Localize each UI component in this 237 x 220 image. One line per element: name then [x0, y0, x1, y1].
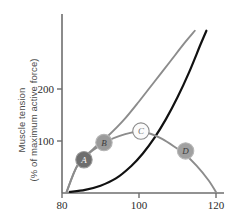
y-axis-label-line2: (% of maximum active force) — [28, 58, 39, 181]
chart-canvas: 100200 80100120 ABCD Muscle tension (% o… — [0, 0, 237, 220]
point-marker-b: B — [96, 134, 112, 150]
muscle-tension-chart: 100200 80100120 ABCD Muscle tension (% o… — [0, 0, 237, 220]
y-axis-ticks: 100200 — [38, 83, 63, 147]
marker-label: C — [138, 126, 145, 136]
y-tick-label: 100 — [38, 135, 55, 147]
x-tick-label: 100 — [131, 199, 148, 211]
x-tick-label: 120 — [208, 199, 225, 211]
point-marker-a: A — [76, 152, 92, 168]
marker-label: D — [181, 146, 189, 156]
y-axis-label-line1: Muscle tension — [16, 88, 27, 153]
x-axis-ticks: 80100120 — [57, 193, 225, 211]
y-axis-label: Muscle tension (% of maximum active forc… — [16, 58, 39, 181]
y-tick-label: 200 — [38, 83, 55, 95]
marker-label: B — [101, 138, 107, 148]
point-marker-c: C — [133, 123, 149, 139]
point-marker-d: D — [177, 143, 193, 159]
marker-label: A — [80, 155, 87, 165]
passive-tension-curve — [70, 31, 207, 192]
x-tick-label: 80 — [57, 199, 69, 211]
